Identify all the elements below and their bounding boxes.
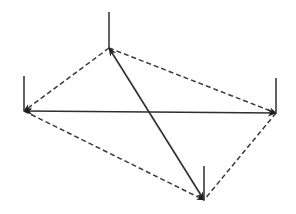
solid-diagonals bbox=[24, 48, 276, 200]
dashed-edge-right-bottom bbox=[204, 113, 276, 200]
node-ticks bbox=[24, 12, 276, 200]
dashed-perimeter bbox=[24, 48, 276, 200]
quadrilateral-arrow-diagram bbox=[0, 0, 296, 214]
dashed-edge-top-right bbox=[109, 48, 276, 113]
diagram-canvas bbox=[0, 0, 296, 214]
dashed-edge-top-left bbox=[24, 48, 109, 111]
